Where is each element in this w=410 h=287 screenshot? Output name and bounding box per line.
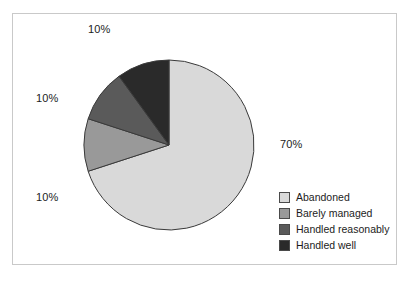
legend-swatch-icon (279, 240, 290, 251)
slice-label-handled-well: 10% (88, 24, 110, 35)
legend-item-label: Abandoned (296, 192, 350, 203)
legend-item-label: Handled reasonably (296, 224, 389, 235)
slice-label-handled-reasonably: 10% (36, 93, 58, 104)
slice-label-abandoned: 70% (280, 139, 302, 150)
legend-item-handled-well[interactable]: Handled well (279, 239, 389, 251)
chart-legend: AbandonedBarely managedHandled reasonabl… (279, 191, 389, 251)
pie-slice-group (84, 60, 254, 230)
slice-label-barely-managed: 10% (36, 192, 58, 203)
legend-swatch-icon (279, 224, 290, 235)
legend-item-handled-reasonably[interactable]: Handled reasonably (279, 223, 389, 235)
legend-item-abandoned[interactable]: Abandoned (279, 191, 389, 203)
legend-swatch-icon (279, 192, 290, 203)
pie-chart-figure: 10% 10% 10% 70% AbandonedBarely managedH… (0, 0, 410, 287)
legend-swatch-icon (279, 208, 290, 219)
plot-area: 10% 10% 10% 70% AbandonedBarely managedH… (0, 0, 410, 287)
legend-item-barely-managed[interactable]: Barely managed (279, 207, 389, 219)
legend-item-label: Barely managed (296, 208, 372, 219)
legend-item-label: Handled well (296, 240, 356, 251)
